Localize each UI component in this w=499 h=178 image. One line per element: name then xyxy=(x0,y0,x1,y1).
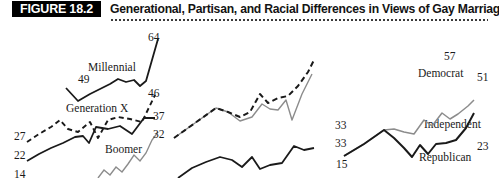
chart-panels-container: Millennial Generation X Boomer 64 49 46 … xyxy=(0,24,499,178)
series-line-democrat xyxy=(174,60,314,138)
value-label-silent-end: 32 xyxy=(153,129,165,140)
series-line-silent xyxy=(98,132,158,178)
partisan-line-chart xyxy=(166,24,332,178)
series-label-generation-x: Generation X xyxy=(66,103,128,114)
series-label-boomer: Boomer xyxy=(105,144,142,155)
chart-panel-partisan: Democrat Independent Republican 57 51 33… xyxy=(166,24,332,178)
value-label-boomer-end: 37 xyxy=(153,111,165,122)
value-label-generation-x-start: 27 xyxy=(14,131,26,142)
chart-panel-generational: Millennial Generation X Boomer 64 49 46 … xyxy=(0,24,166,178)
series-line-black xyxy=(344,113,474,157)
value-label-generation-x-end: 46 xyxy=(148,88,160,99)
series-line-republican xyxy=(178,146,314,178)
value-label-silent-start: 14 xyxy=(14,169,26,178)
racial-line-chart xyxy=(332,24,499,178)
figure-title: Generational, Partisan, and Racial Diffe… xyxy=(110,1,499,17)
chart-panel-racial: White Black 46 36 27 26 xyxy=(332,24,499,178)
series-line-white xyxy=(344,100,474,156)
figure-number-tag: FIGURE 18.2 xyxy=(12,1,101,17)
series-label-millennial: Millennial xyxy=(88,62,136,73)
value-label-millennial-start: 49 xyxy=(78,74,90,85)
value-label-millennial-end: 64 xyxy=(148,32,160,43)
series-line-independent xyxy=(174,74,312,138)
figure-header: FIGURE 18.2 Generational, Partisan, and … xyxy=(0,0,499,24)
title-dotted-rule xyxy=(110,19,488,21)
value-label-boomer-start: 22 xyxy=(14,150,26,161)
